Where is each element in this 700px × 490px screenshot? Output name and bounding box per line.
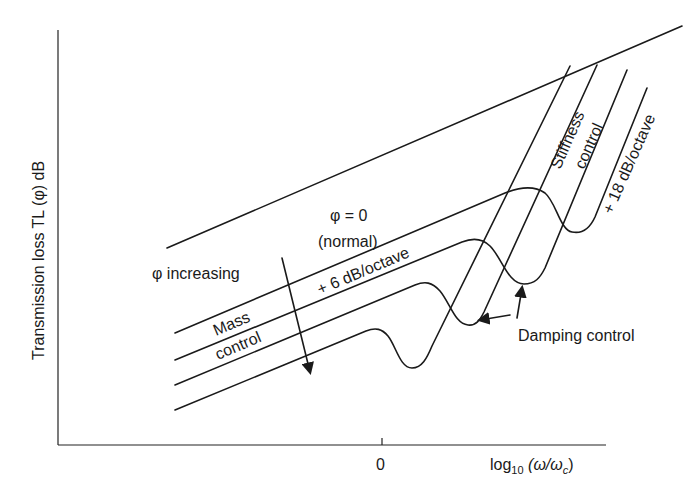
damping-arrow-left bbox=[480, 315, 510, 320]
damping-arrow-up bbox=[517, 288, 522, 318]
label-six-db-octave: + 6 dB/octave bbox=[315, 244, 412, 298]
curve-phi-zero-normal bbox=[167, 26, 682, 248]
label-eighteen-db-octave: + 18 dB/octave bbox=[599, 111, 658, 216]
x-axis-label: log10 (ω/ωc) bbox=[490, 456, 574, 476]
label-phi-zero: φ = 0 bbox=[330, 207, 368, 224]
label-phi-increasing: φ increasing bbox=[152, 265, 240, 282]
transmission-loss-diagram: Transmission loss TL (φ) dB 0 log10 (ω/ω… bbox=[0, 0, 700, 490]
x-tick-label-zero: 0 bbox=[376, 456, 385, 473]
label-damping-control: Damping control bbox=[518, 327, 635, 344]
y-axis-label: Transmission loss TL (φ) dB bbox=[30, 161, 47, 360]
label-normal: (normal) bbox=[318, 233, 378, 250]
